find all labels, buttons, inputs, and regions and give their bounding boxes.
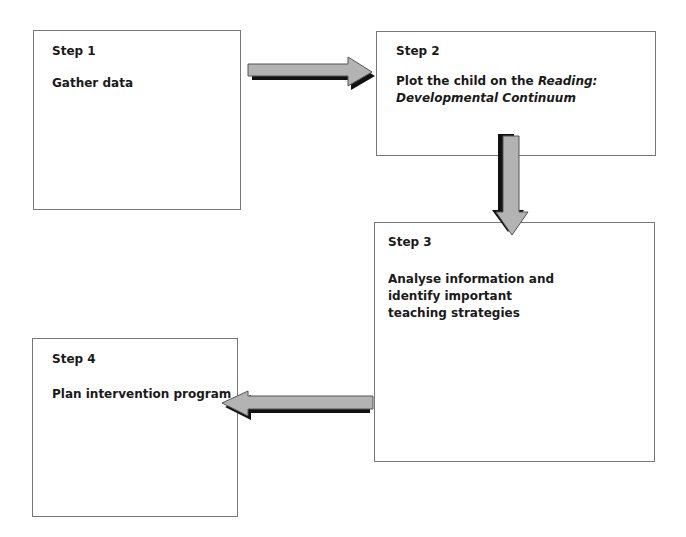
arrow-left-icon bbox=[0, 0, 686, 537]
